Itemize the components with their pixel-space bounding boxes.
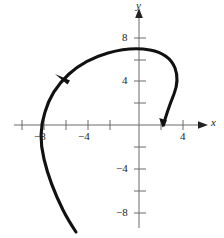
spiral-plot-figure: −8 −4 4 8 4 −4 −8 x y	[0, 0, 224, 238]
y-tick-label-8: 8	[122, 32, 128, 43]
x-tick-label--4: −4	[78, 131, 90, 142]
x-tick-label-4: 4	[180, 131, 186, 142]
y-tick-label-4: 4	[122, 75, 128, 86]
plot-canvas	[0, 0, 224, 238]
spiral-curve	[41, 49, 177, 232]
y-tick-label--4: −4	[116, 163, 128, 174]
y-axis-label: y	[136, 0, 141, 11]
x-axis-arrowhead	[198, 121, 208, 129]
y-tick-label--8: −8	[116, 207, 128, 218]
x-axis-label: x	[211, 117, 216, 128]
x-tick-label--8: −8	[34, 131, 46, 142]
